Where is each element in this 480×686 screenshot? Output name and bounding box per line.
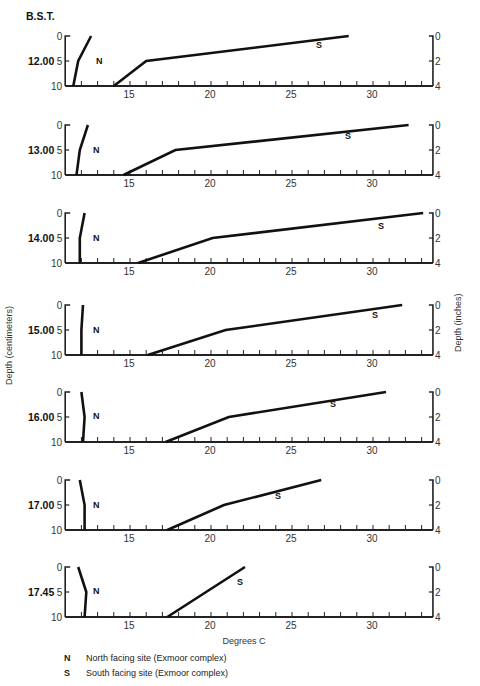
left-tick-label: 0 [57, 31, 63, 42]
left-tick-label: 5 [57, 233, 63, 244]
right-tick-label: 4 [435, 437, 441, 448]
temperature-depth-chart: B.S.T.05100241520253012.00NS051002415202… [0, 0, 480, 686]
right-tick-label: 0 [435, 120, 441, 131]
series-line-n [73, 36, 91, 86]
series-label-n: N [93, 145, 100, 155]
series-label-s: S [378, 221, 384, 231]
x-tick-label: 25 [285, 620, 297, 631]
right-tick-label: 4 [435, 170, 441, 181]
x-tick-label: 30 [366, 533, 378, 544]
right-tick-label: 4 [435, 525, 441, 536]
x-tick-label: 15 [123, 445, 135, 456]
x-tick-label: 20 [204, 178, 216, 189]
legend: N North facing site (Exmoor complex) S S… [64, 650, 228, 680]
series-line-s [124, 125, 409, 175]
x-tick-label: 30 [366, 445, 378, 456]
x-tick-label: 20 [204, 89, 216, 100]
x-tick-label: 15 [123, 89, 135, 100]
series-label-n: N [93, 500, 100, 510]
right-tick-label: 2 [435, 412, 441, 423]
time-label: 17.00 [28, 499, 54, 511]
right-tick-label: 2 [435, 56, 441, 67]
x-tick-label: 15 [123, 266, 135, 277]
x-tick-label: 30 [366, 266, 378, 277]
x-axis-title: Degrees C [222, 636, 266, 646]
right-tick-label: 0 [435, 31, 441, 42]
x-tick-label: 25 [285, 89, 297, 100]
left-tick-label: 0 [57, 300, 63, 311]
series-line-n [80, 480, 85, 530]
legend-key-s: S [64, 668, 86, 678]
series-line-s [167, 567, 245, 617]
series-label-s: S [330, 399, 336, 409]
left-tick-label: 5 [57, 325, 63, 336]
left-tick-label: 0 [57, 475, 63, 486]
series-line-s [148, 305, 402, 355]
x-tick-label: 25 [285, 266, 297, 277]
x-tick-label: 25 [285, 178, 297, 189]
right-tick-label: 4 [435, 258, 441, 269]
right-tick-label: 0 [435, 475, 441, 486]
time-label: 13.00 [28, 144, 54, 156]
time-label: 12.00 [28, 55, 54, 67]
left-tick-label: 0 [57, 208, 63, 219]
right-tick-label: 0 [435, 562, 441, 573]
x-tick-label: 20 [204, 533, 216, 544]
x-tick-label: 15 [123, 178, 135, 189]
left-tick-label: 5 [57, 412, 63, 423]
right-tick-label: 0 [435, 300, 441, 311]
series-line-n [77, 125, 88, 175]
left-tick-label: 5 [57, 56, 63, 67]
right-tick-label: 2 [435, 587, 441, 598]
x-tick-label: 30 [366, 178, 378, 189]
x-tick-label: 15 [123, 533, 135, 544]
x-tick-label: 20 [204, 445, 216, 456]
left-tick-label: 0 [57, 387, 63, 398]
series-label-s: S [372, 310, 378, 320]
x-tick-label: 20 [204, 358, 216, 369]
series-label-s: S [237, 577, 243, 587]
x-tick-label: 15 [123, 620, 135, 631]
series-line-n [81, 305, 83, 355]
right-tick-label: 0 [435, 387, 441, 398]
x-tick-label: 20 [204, 266, 216, 277]
legend-item-north: N North facing site (Exmoor complex) [64, 650, 228, 665]
left-tick-label: 10 [51, 81, 63, 92]
series-line-n [78, 567, 86, 617]
left-tick-label: 10 [51, 350, 63, 361]
legend-label-n: North facing site (Exmoor complex) [86, 653, 227, 663]
series-label-n: N [93, 325, 100, 335]
series-line-s [114, 36, 349, 86]
series-line-s [166, 392, 386, 442]
legend-key-n: N [64, 653, 86, 663]
x-tick-label: 30 [366, 620, 378, 631]
series-label-s: S [316, 40, 322, 50]
left-tick-label: 5 [57, 145, 63, 156]
right-tick-label: 2 [435, 145, 441, 156]
series-label-s: S [345, 131, 351, 141]
left-tick-label: 10 [51, 258, 63, 269]
legend-item-south: S South facing site (Exmoor complex) [64, 665, 228, 680]
right-tick-label: 4 [435, 81, 441, 92]
left-tick-label: 10 [51, 612, 63, 623]
x-tick-label: 25 [285, 358, 297, 369]
y-axis-title-left: Depth (centimeters) [4, 306, 14, 385]
right-tick-label: 2 [435, 500, 441, 511]
time-label: 14.00 [28, 232, 54, 244]
time-label: 17.45 [28, 586, 54, 598]
right-tick-label: 0 [435, 208, 441, 219]
series-label-n: N [93, 586, 100, 596]
x-tick-label: 20 [204, 620, 216, 631]
left-tick-label: 10 [51, 170, 63, 181]
x-tick-label: 30 [366, 358, 378, 369]
x-tick-label: 15 [123, 358, 135, 369]
series-line-n [81, 392, 84, 442]
right-tick-label: 2 [435, 233, 441, 244]
left-tick-label: 0 [57, 120, 63, 131]
left-tick-label: 10 [51, 437, 63, 448]
left-tick-label: 0 [57, 562, 63, 573]
series-label-n: N [93, 233, 100, 243]
x-tick-label: 30 [366, 89, 378, 100]
right-tick-label: 4 [435, 612, 441, 623]
legend-label-s: South facing site (Exmoor complex) [86, 668, 228, 678]
